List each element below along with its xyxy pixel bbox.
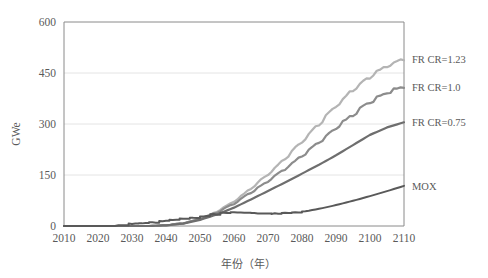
y-tick-label-450: 450 bbox=[39, 67, 57, 79]
series-label-fr-cr-0-75: FR CR=0.75 bbox=[412, 117, 466, 128]
series-label-fr-cr-1-0: FR CR=1.0 bbox=[412, 82, 461, 93]
y-tick-label-600: 600 bbox=[39, 16, 57, 28]
x-axis-title: 年份（年） bbox=[221, 257, 276, 271]
series-label-mox: MOX bbox=[412, 181, 437, 192]
x-tick-label-2100: 2100 bbox=[359, 232, 382, 244]
x-tick-label-2080: 2080 bbox=[291, 232, 314, 244]
x-tick-label-2110: 2110 bbox=[393, 232, 416, 244]
x-tick-label-2010: 2010 bbox=[53, 232, 76, 244]
chart-container: 0150300450600 20102020203020402050206020… bbox=[0, 0, 488, 278]
x-tick-label-2050: 2050 bbox=[189, 232, 212, 244]
x-tick-label-2030: 2030 bbox=[121, 232, 144, 244]
x-tick-label-2090: 2090 bbox=[325, 232, 348, 244]
series-label-fr-cr-1-23: FR CR=1.23 bbox=[412, 54, 466, 65]
y-tick-label-0: 0 bbox=[50, 220, 56, 232]
x-tick-label-2070: 2070 bbox=[257, 232, 280, 244]
x-tick-label-2060: 2060 bbox=[223, 232, 246, 244]
x-tick-label-2040: 2040 bbox=[155, 232, 178, 244]
y-tick-label-150: 150 bbox=[39, 169, 57, 181]
x-tick-label-2020: 2020 bbox=[87, 232, 110, 244]
y-tick-label-300: 300 bbox=[39, 118, 57, 130]
x-tick-labels: 2010202020302040205020602070208020902100… bbox=[53, 232, 416, 244]
y-axis-title: GWe bbox=[10, 122, 22, 145]
line-chart: 0150300450600 20102020203020402050206020… bbox=[0, 0, 488, 278]
